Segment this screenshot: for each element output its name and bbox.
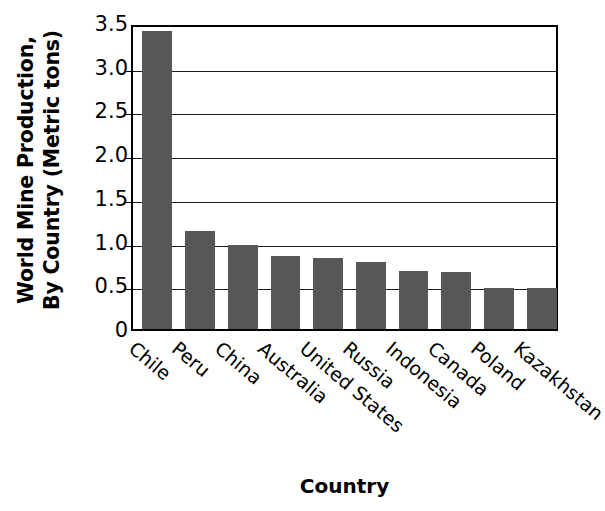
y-axis-title: World Mine Production, By Country (Metri…: [0, 0, 90, 345]
y-tick-label: 2.5: [82, 101, 128, 122]
y-tick-label: 2.0: [82, 145, 128, 166]
x-tick-label: China: [211, 337, 267, 389]
y-tick-mark: [126, 289, 133, 290]
bar: [228, 245, 258, 329]
bar: [527, 288, 557, 329]
x-tick-label: Chile: [125, 337, 176, 384]
bar-series: [133, 27, 556, 329]
bar: [142, 31, 172, 329]
bar: [185, 231, 215, 329]
y-axis-title-line-2: By Country (Metric tons): [39, 5, 65, 335]
y-axis-tick-labels: 3.53.02.52.01.51.00.50: [84, 0, 128, 511]
y-tick-mark: [126, 202, 133, 203]
y-tick-label: 1.5: [82, 189, 128, 210]
x-tick-label: Peru: [168, 337, 215, 381]
y-axis-title-line-1: World Mine Production,: [13, 5, 39, 335]
bar: [356, 262, 386, 329]
x-axis-title: Country: [131, 474, 558, 498]
y-tick-label: 0: [82, 320, 128, 341]
y-tick-mark: [126, 246, 133, 247]
y-tick-label: 1.0: [82, 233, 128, 254]
y-tick-label: 0.5: [82, 276, 128, 297]
y-tick-mark: [126, 71, 133, 72]
plot-area: [131, 25, 558, 331]
bar: [399, 271, 429, 329]
y-tick-mark: [126, 158, 133, 159]
y-tick-label: 3.0: [82, 58, 128, 79]
bar: [313, 258, 343, 329]
bar: [271, 256, 301, 329]
y-tick-mark: [126, 114, 133, 115]
bar: [441, 272, 471, 329]
x-axis-category-labels: ChilePeruChinaAustraliaUnited StatesRuss…: [131, 331, 558, 471]
bar: [484, 288, 514, 329]
y-tick-label: 3.5: [82, 14, 128, 35]
